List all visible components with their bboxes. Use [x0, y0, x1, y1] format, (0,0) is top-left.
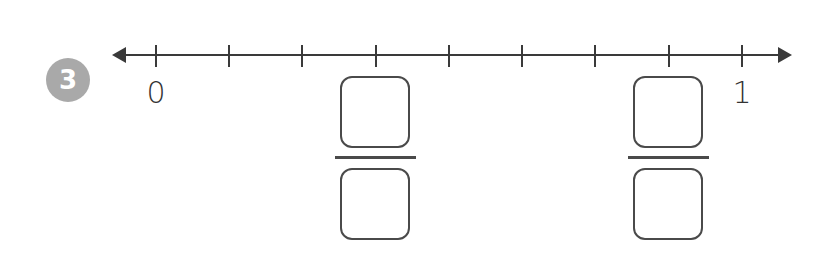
label-zero: 0: [146, 78, 165, 108]
right-arrow-icon: [778, 47, 792, 63]
numerator-box-1[interactable]: [340, 76, 410, 148]
numerator-box-2[interactable]: [633, 76, 703, 148]
fraction-bar-2: [628, 156, 709, 159]
label-one: 1: [732, 78, 751, 108]
left-arrow-icon: [112, 47, 126, 63]
denominator-box-1[interactable]: [340, 168, 410, 240]
fraction-bar-1: [335, 156, 416, 159]
denominator-box-2[interactable]: [633, 168, 703, 240]
